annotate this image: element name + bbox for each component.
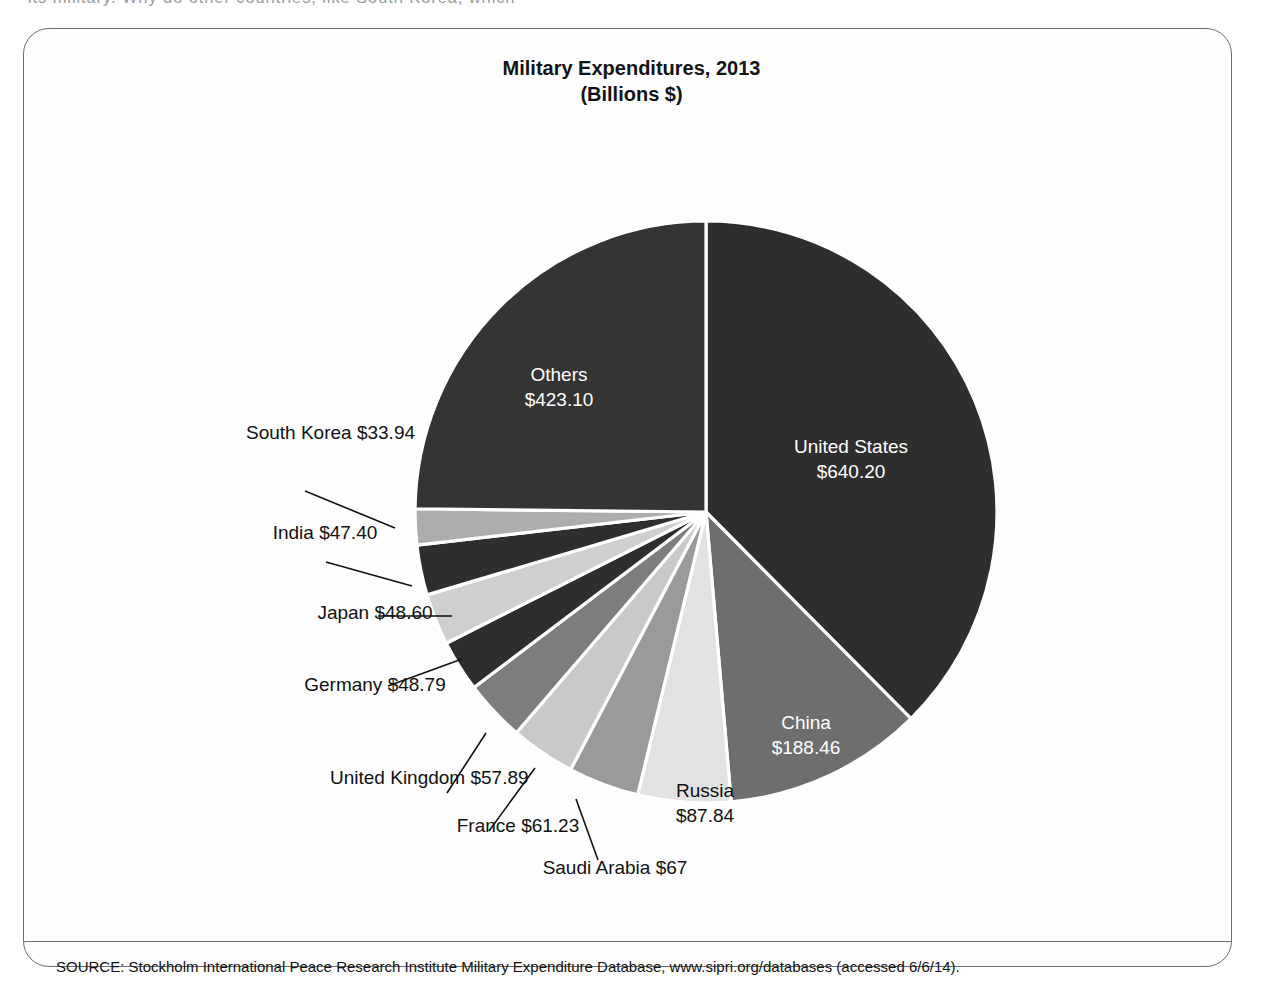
pie-label-france-value: $61.23: [521, 815, 579, 836]
pie-label-china-value: $188.46: [716, 735, 896, 760]
pie-label-japan: Japan $48.60: [300, 600, 450, 625]
pie-label-russia: Russia $87.84: [625, 778, 785, 828]
pie-label-others: Others $423.10: [464, 362, 654, 412]
pie-label-others-name: Others: [464, 362, 654, 387]
pie-label-russia-name: Russia: [625, 778, 785, 803]
pie-label-germany-value: $48.79: [388, 674, 446, 695]
pie-label-united-states: United States $640.20: [756, 434, 946, 484]
pie-label-india-value: $47.40: [319, 522, 377, 543]
pie-label-germany: Germany $48.79: [290, 672, 460, 697]
pie-label-saudi-arabia: Saudi Arabia $67: [535, 855, 695, 880]
pie-label-united-kingdom-name-line2: Kingdom: [390, 767, 465, 788]
pie-label-saudi-arabia-name-line2: Arabia: [595, 857, 650, 878]
chart-title: Military Expenditures, 2013: [0, 55, 1263, 81]
chart-subtitle: (Billions $): [0, 81, 1263, 107]
pie-label-south-korea: South Korea $33.94: [246, 420, 396, 445]
pie-label-india: India $47.40: [250, 520, 400, 545]
pie-label-japan-value: $48.60: [374, 602, 432, 623]
pie-label-south-korea-value: $33.94: [357, 422, 415, 443]
body-text-fragment: its military. Why do other countries, li…: [28, 0, 1228, 8]
pie-label-saudi-arabia-name-line1: Saudi: [543, 857, 592, 878]
pie-label-france: France $61.23: [443, 813, 593, 838]
pie-label-south-korea-name-line2: Korea: [301, 422, 352, 443]
pie-label-russia-value: $87.84: [625, 803, 785, 828]
source-note: SOURCE: Stockholm International Peace Re…: [56, 957, 960, 977]
pie-label-france-name: France: [457, 815, 516, 836]
pie-label-china-name: China: [716, 710, 896, 735]
pie-label-others-value: $423.10: [464, 387, 654, 412]
pie-label-india-name: India: [273, 522, 314, 543]
pie-label-united-states-value: $640.20: [756, 459, 946, 484]
pie-label-china: China $188.46: [716, 710, 896, 760]
pie-label-united-kingdom-name-line1: United: [330, 767, 385, 788]
pie-label-germany-name: Germany: [304, 674, 382, 695]
pie-label-south-korea-name-line1: South: [246, 422, 296, 443]
pie-label-united-kingdom-value: $57.89: [470, 767, 528, 788]
source-divider: [24, 941, 1231, 942]
pie-label-japan-name: Japan: [317, 602, 369, 623]
pie-label-united-kingdom: United Kingdom $57.89: [330, 765, 490, 790]
pie-label-united-states-name: United States: [756, 434, 946, 459]
pie-label-saudi-arabia-value: $67: [656, 857, 688, 878]
